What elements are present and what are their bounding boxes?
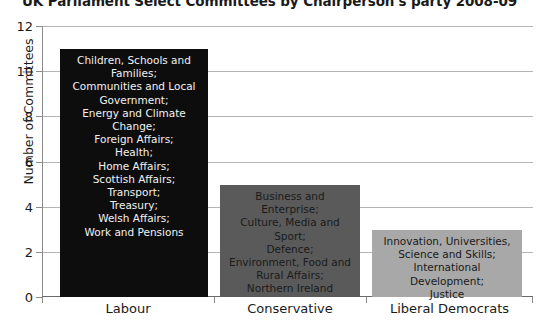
- chart-title: UK Parliament Select Committees by Chair…: [0, 0, 539, 9]
- plot-area: 12 10 8 6 4 2 0: [42, 26, 533, 297]
- y-tick-label-10: 10: [16, 64, 33, 79]
- y-tick-label-8: 8: [25, 109, 33, 124]
- y-axis-line: [42, 26, 43, 297]
- x-axis-label-conservative: Conservative: [214, 301, 366, 316]
- y-tick-label-0: 0: [25, 290, 33, 305]
- bar-conservative[interactable]: Business and Enterprise; Culture, Media …: [220, 185, 360, 297]
- bar-liberal-democrats[interactable]: Innovation, Universities, Science and Sk…: [372, 230, 522, 297]
- y-tick-label-12: 12: [16, 19, 33, 34]
- gridline: [42, 26, 533, 27]
- bar-liberal-democrats-committees: Innovation, Universities, Science and Sk…: [372, 235, 522, 301]
- bar-labour[interactable]: Children, Schools and Families; Communit…: [60, 49, 208, 297]
- x-axis-label-labour: Labour: [42, 301, 214, 316]
- bar-labour-committees: Children, Schools and Families; Communit…: [60, 54, 208, 239]
- bar-conservative-committees: Business and Enterprise; Culture, Media …: [220, 190, 360, 296]
- y-tick-label-2: 2: [25, 244, 33, 259]
- y-tick-label-6: 6: [25, 154, 33, 169]
- y-tick-label-4: 4: [25, 199, 33, 214]
- x-axis-label-liberal-democrats: Liberal Democrats: [366, 301, 533, 316]
- bar-chart: UK Parliament Select Committees by Chair…: [0, 0, 539, 324]
